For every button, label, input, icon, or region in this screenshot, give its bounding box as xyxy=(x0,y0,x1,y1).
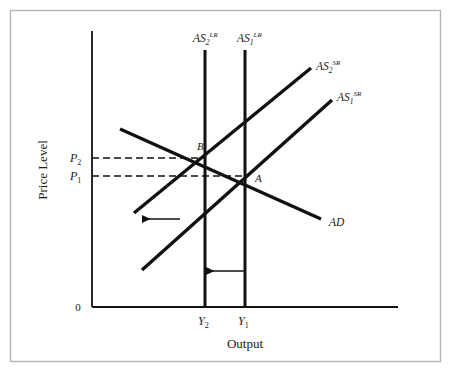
p1-sub: 1 xyxy=(77,176,81,185)
as1-sr-sub: 1 xyxy=(350,97,354,106)
as2-lr-sub: 2 xyxy=(206,38,210,47)
y2-sub: 2 xyxy=(205,321,209,330)
as1-lr-base: AS xyxy=(236,32,250,44)
curve-label-ad: AD xyxy=(328,216,345,228)
point-label-b: B xyxy=(197,140,204,152)
as2-sr-sub: 2 xyxy=(329,66,333,75)
figure-container: Price Level Output 0 AS2LR AS1LR AS2SR A… xyxy=(0,0,452,373)
as1-lr-sub: 1 xyxy=(250,38,254,47)
x-axis-label: Output xyxy=(227,336,264,351)
as2-lr-sup: LR xyxy=(209,31,219,39)
as2-sr-base: AS xyxy=(315,60,329,72)
p2-sub: 2 xyxy=(77,158,81,167)
origin-label: 0 xyxy=(75,301,81,313)
y-axis-label: Price Level xyxy=(35,140,50,200)
as-ad-diagram: Price Level Output 0 AS2LR AS1LR AS2SR A… xyxy=(0,0,452,373)
page-background xyxy=(0,0,452,373)
as1-sr-sup: SR xyxy=(354,90,363,98)
y1-sub: 1 xyxy=(245,321,249,330)
as2-sr-sup: SR xyxy=(333,59,342,67)
as2-lr-base: AS xyxy=(192,32,206,44)
point-label-a: A xyxy=(254,172,262,184)
as1-lr-sup: LR xyxy=(253,31,263,39)
as1-sr-base: AS xyxy=(336,91,350,103)
